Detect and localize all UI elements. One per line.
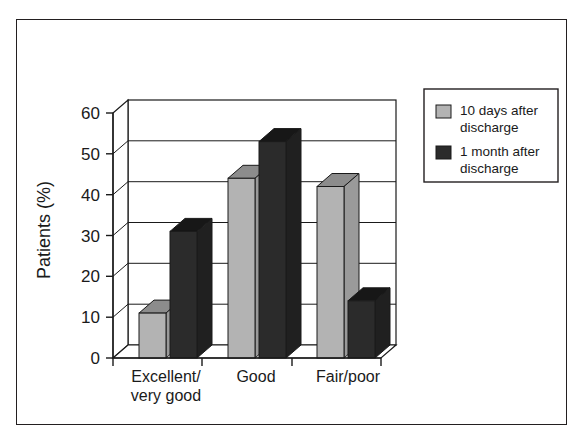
bar-front-face — [348, 301, 375, 358]
x-label-excellent-line1: Excellent/ — [131, 368, 201, 385]
y-axis-title: Patients (%) — [34, 181, 54, 279]
y-tick-label-40: 40 — [81, 186, 100, 205]
y-tick-label-10: 10 — [81, 308, 100, 327]
y-tick-label-30: 30 — [81, 227, 100, 246]
bar-side-face — [286, 129, 301, 358]
bar-front-face — [259, 142, 286, 358]
y-tick-label-20: 20 — [81, 267, 100, 286]
y-tick-label-60: 60 — [81, 104, 100, 123]
bar-side-face — [197, 218, 212, 358]
y-axis — [106, 113, 113, 358]
legend: 10 days after discharge 1 month after di… — [424, 89, 558, 182]
legend-label-1month-line1: 1 month after — [460, 144, 540, 159]
bar-front-face — [139, 313, 166, 358]
y-tick-label-50: 50 — [81, 145, 100, 164]
x-axis — [113, 358, 381, 366]
legend-swatch-icon — [436, 105, 451, 118]
bar-good-1month[interactable] — [259, 129, 301, 358]
legend-swatch-icon — [436, 146, 451, 159]
bar-side-face — [375, 288, 390, 358]
x-category-labels: Excellent/ very good Good Fair/poor — [131, 368, 381, 404]
bar-front-face — [170, 231, 197, 358]
legend-label-1month-line2: discharge — [460, 161, 519, 176]
bar-front-face — [228, 178, 255, 358]
bar-excellent-1month[interactable] — [170, 218, 212, 358]
x-label-excellent-line2: very good — [131, 387, 201, 404]
x-label-good: Good — [236, 368, 275, 385]
y-tick-label-0: 0 — [91, 349, 100, 368]
x-label-fairpoor: Fair/poor — [316, 368, 381, 385]
legend-label-10days-line1: 10 days after — [460, 103, 539, 118]
bar-chart: 60 50 40 30 20 10 0 Patients (%) — [0, 0, 584, 445]
legend-label-10days-line2: discharge — [460, 120, 519, 135]
figure-container: 60 50 40 30 20 10 0 Patients (%) — [0, 0, 584, 445]
chart-svg: 60 50 40 30 20 10 0 Patients (%) — [0, 0, 584, 445]
bar-fairpoor-1month[interactable] — [348, 288, 390, 358]
bar-front-face — [317, 187, 344, 359]
y-tick-labels: 60 50 40 30 20 10 0 — [81, 104, 100, 368]
